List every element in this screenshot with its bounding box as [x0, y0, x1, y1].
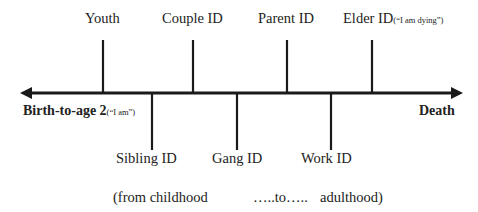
label-couple-id: Couple ID: [162, 11, 223, 26]
label-text: Elder ID: [343, 10, 393, 26]
caption-right: adulthood): [320, 190, 383, 205]
identity-timeline-diagram: Youth Couple ID Parent ID Elder ID(“I am…: [0, 0, 478, 212]
label-birth-to-age-2: Birth-to-age 2(“I am”): [23, 104, 135, 118]
label-text: Gang ID: [212, 150, 262, 166]
right-arrowhead-icon: [451, 87, 463, 99]
caption-left: (from childhood: [113, 190, 208, 205]
label-text: Youth: [85, 10, 120, 26]
start-label-text: Birth-to-age 2: [23, 103, 107, 118]
label-parent-id: Parent ID: [258, 11, 314, 26]
label-elder-id: Elder ID(“I am dying”): [343, 11, 443, 26]
label-work-id: Work ID: [301, 151, 352, 166]
label-text: Couple ID: [162, 10, 223, 26]
label-text: Parent ID: [258, 10, 314, 26]
label-text: Sibling ID: [116, 150, 177, 166]
label-note: (“I am dying”): [393, 15, 443, 25]
end-label-text: Death: [419, 103, 455, 118]
label-text: Work ID: [301, 150, 352, 166]
label-gang-id: Gang ID: [212, 151, 262, 166]
label-youth: Youth: [85, 11, 120, 26]
caption-middle: …..to…..: [253, 190, 308, 205]
start-label-note: (“I am”): [107, 107, 136, 117]
label-death: Death: [419, 104, 455, 118]
label-sibling-id: Sibling ID: [116, 151, 177, 166]
left-arrowhead-icon: [20, 87, 32, 99]
